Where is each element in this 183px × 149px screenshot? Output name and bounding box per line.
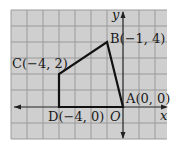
coordinate-plane: y x O B(−1, 4) C(−4, 2) A(0, 0) D(−4, 0): [0, 0, 183, 149]
origin-label: O: [110, 109, 121, 124]
point-A-label: A(0, 0): [125, 91, 170, 106]
y-axis-label: y: [111, 7, 120, 22]
x-axis-label: x: [160, 108, 168, 123]
point-D-label: D(−4, 0): [48, 109, 104, 124]
point-B-label: B(−1, 4): [110, 31, 165, 46]
point-C-label: C(−4, 2): [12, 56, 68, 71]
